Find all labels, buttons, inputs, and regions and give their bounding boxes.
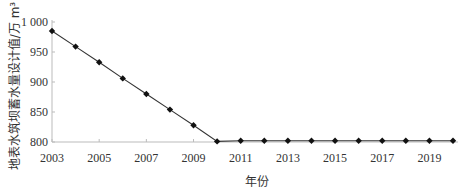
x-tick-label: 2009	[182, 151, 206, 165]
x-tick-label: 2005	[87, 151, 111, 165]
y-axis-title: 地表水筑坝蓄水量设计值/万 m³	[7, 2, 22, 171]
data-point-diamond-icon	[285, 138, 291, 144]
data-point-diamond-icon	[96, 59, 102, 65]
x-tick-label: 2017	[370, 151, 394, 165]
data-point-diamond-icon	[332, 138, 338, 144]
data-point-diamond-icon	[120, 75, 126, 81]
y-axis: 8008509009501 000	[21, 15, 55, 149]
x-tick-label: 2011	[229, 151, 253, 165]
data-point-diamond-icon	[261, 138, 267, 144]
y-tick-label: 950	[30, 45, 48, 59]
data-point-diamond-icon	[450, 138, 456, 144]
data-point-diamond-icon	[49, 28, 55, 34]
y-tick-label: 1 000	[21, 15, 48, 29]
x-axis: 200320052007200920112013201520172019	[40, 139, 458, 165]
data-point-diamond-icon	[214, 138, 220, 144]
data-point-diamond-icon	[308, 138, 314, 144]
y-tick-label: 900	[30, 75, 48, 89]
data-series	[49, 28, 456, 145]
data-point-diamond-icon	[72, 43, 78, 49]
data-point-diamond-icon	[355, 138, 361, 144]
data-point-diamond-icon	[167, 106, 173, 112]
data-point-diamond-icon	[190, 122, 196, 128]
x-tick-label: 2007	[134, 151, 158, 165]
data-point-diamond-icon	[379, 138, 385, 144]
x-tick-label: 2015	[323, 151, 347, 165]
x-axis-title: 年份	[245, 175, 269, 189]
y-tick-label: 850	[30, 105, 48, 119]
y-tick-label: 800	[30, 135, 48, 149]
data-point-diamond-icon	[143, 91, 149, 97]
data-point-diamond-icon	[426, 138, 432, 144]
x-tick-label: 2013	[276, 151, 300, 165]
data-point-diamond-icon	[238, 138, 244, 144]
data-point-diamond-icon	[403, 138, 409, 144]
x-tick-label: 2019	[417, 151, 441, 165]
line-chart: 8008509009501 000 2003200520072009201120…	[0, 0, 463, 196]
x-tick-label: 2003	[40, 151, 64, 165]
series-line	[52, 31, 453, 141]
